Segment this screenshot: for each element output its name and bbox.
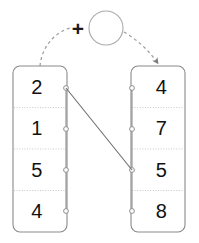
diagram-canvas: + 2154 4758 xyxy=(0,0,199,243)
connector-port[interactable] xyxy=(130,86,135,91)
list-item-value: 4 xyxy=(156,76,167,98)
right-value-list[interactable]: 4758 xyxy=(130,66,185,232)
connector-port[interactable] xyxy=(64,127,69,132)
left-value-list[interactable]: 2154 xyxy=(13,66,68,232)
list-item-value: 1 xyxy=(31,117,42,139)
connector-port[interactable] xyxy=(64,209,69,214)
list-item-value: 5 xyxy=(31,159,42,181)
connector-port[interactable] xyxy=(130,127,135,132)
mapping-line-left1-right3[interactable] xyxy=(66,88,132,170)
list-item-value: 5 xyxy=(156,159,167,181)
dashed-arc-operator-to-right xyxy=(124,32,157,62)
dashed-arc-left-to-operator xyxy=(40,28,70,66)
list-item-value: 7 xyxy=(156,117,167,139)
diagram-svg: + 2154 4758 xyxy=(0,0,199,243)
list-item-value: 2 xyxy=(31,76,42,98)
connector-port[interactable] xyxy=(130,209,135,214)
empty-circle-node[interactable] xyxy=(89,11,123,45)
plus-operator-symbol: + xyxy=(72,17,84,40)
connector-port[interactable] xyxy=(64,168,69,173)
mapping-lines-group[interactable] xyxy=(66,88,132,170)
list-item-value: 4 xyxy=(31,200,42,222)
list-item-value: 8 xyxy=(156,200,167,222)
